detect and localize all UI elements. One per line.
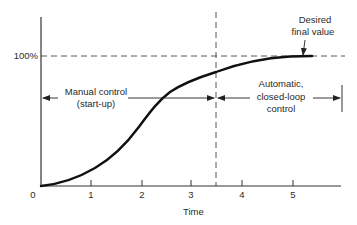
desired-label-1: Desired bbox=[299, 14, 332, 25]
auto-control-label-2: closed-loop bbox=[257, 91, 306, 102]
auto-control-label-3: control bbox=[267, 103, 296, 114]
tick-label-2: 2 bbox=[139, 189, 144, 200]
x-axis-title: Time bbox=[183, 206, 204, 217]
response-curve bbox=[41, 56, 312, 186]
tick-label-3: 3 bbox=[188, 189, 193, 200]
manual-control-label: Manual control bbox=[65, 86, 127, 97]
process-response-diagram: 0 1 2 3 4 5 Time 100% Manual control (st… bbox=[0, 0, 357, 225]
desired-label-2: final value bbox=[292, 26, 335, 37]
tick-label-4: 4 bbox=[239, 189, 244, 200]
tick-label-5: 5 bbox=[290, 189, 295, 200]
tick-label-0: 0 bbox=[30, 189, 35, 200]
tick-label-1: 1 bbox=[88, 189, 93, 200]
y-label-100: 100% bbox=[14, 50, 39, 61]
desired-pointer-arrow bbox=[303, 40, 305, 55]
x-ticks bbox=[91, 180, 293, 186]
auto-control-label-1: Automatic, bbox=[259, 78, 304, 89]
manual-control-sublabel: (start-up) bbox=[77, 98, 116, 109]
